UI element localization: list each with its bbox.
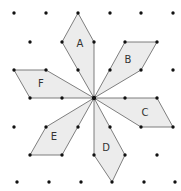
grid-dot bbox=[139, 68, 142, 71]
grid-dot bbox=[108, 11, 111, 14]
grid-dot bbox=[171, 125, 174, 128]
parallelogram-e bbox=[30, 98, 94, 155]
shape-label-c: C bbox=[142, 107, 149, 118]
grid-dot bbox=[12, 68, 15, 71]
grid-dot bbox=[15, 180, 18, 183]
grid-dot bbox=[79, 180, 82, 183]
diagram-canvas: ABCDEF bbox=[0, 0, 181, 191]
grid-dot bbox=[171, 11, 174, 14]
grid-dot bbox=[47, 180, 50, 183]
shape-label-d: D bbox=[102, 142, 110, 153]
grid-dot bbox=[28, 96, 31, 99]
grid-dot bbox=[60, 153, 63, 156]
grid-dot bbox=[139, 125, 142, 128]
parallelogram-b bbox=[94, 42, 157, 98]
grid-dot bbox=[76, 68, 79, 71]
grid-dot bbox=[123, 153, 126, 156]
grid-dot bbox=[12, 11, 15, 14]
grid-dot bbox=[123, 40, 126, 43]
center-dot bbox=[92, 96, 96, 100]
grid-dot bbox=[173, 180, 176, 183]
grid-dot bbox=[60, 96, 63, 99]
grid-dot bbox=[139, 11, 142, 14]
grid-dot bbox=[60, 40, 63, 43]
grid-dot bbox=[92, 40, 95, 43]
grid-dot bbox=[44, 68, 47, 71]
grid-dot bbox=[155, 40, 158, 43]
grid-dot bbox=[28, 40, 31, 43]
grid-dot bbox=[123, 96, 126, 99]
grid-dot bbox=[108, 68, 111, 71]
grid-dot bbox=[108, 125, 111, 128]
shape-label-b: B bbox=[125, 54, 132, 65]
grid-dot bbox=[76, 125, 79, 128]
grid-dot bbox=[28, 153, 31, 156]
shape-label-a: A bbox=[77, 38, 84, 49]
grid-dot bbox=[44, 125, 47, 128]
grid-dot bbox=[92, 153, 95, 156]
shape-label-e: E bbox=[51, 131, 57, 142]
grid-dot bbox=[44, 11, 47, 14]
grid-dot bbox=[110, 180, 113, 183]
grid-dot bbox=[155, 153, 158, 156]
shape-label-f: F bbox=[38, 78, 44, 89]
grid-dot bbox=[12, 125, 15, 128]
grid-dot bbox=[155, 96, 158, 99]
grid-dot bbox=[76, 11, 79, 14]
grid-dot bbox=[171, 68, 174, 71]
grid-dot bbox=[142, 180, 145, 183]
isometric-dot-grid-diagram: ABCDEF bbox=[0, 0, 181, 191]
